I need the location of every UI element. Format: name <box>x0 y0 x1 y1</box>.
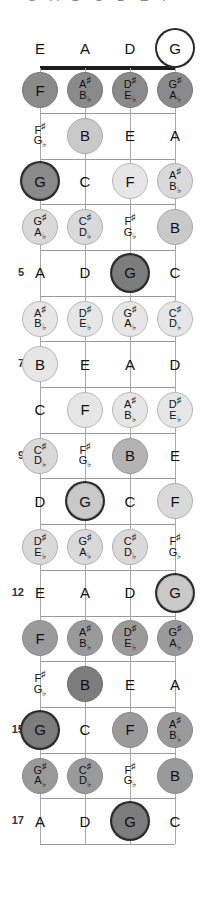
note-E-fret3[interactable]: G <box>22 163 58 199</box>
note-E-fret6[interactable]: A♯B♭ <box>22 301 58 337</box>
note-D-fret7[interactable]: A <box>112 346 148 382</box>
note-G-fret1[interactable]: G♯A♭ <box>157 72 193 108</box>
note-D-fret0[interactable]: D <box>112 30 148 66</box>
note-A-fret4[interactable]: C♯D♭ <box>67 209 103 245</box>
note-A-fret14[interactable]: B <box>67 666 103 702</box>
fret-number-17: 17 <box>2 814 24 826</box>
note-A-fret1[interactable]: A♯B♭ <box>67 72 103 108</box>
note-A-fret16[interactable]: C♯D♭ <box>67 758 103 794</box>
note-label: E <box>170 448 180 463</box>
note-flat-label: E♭ <box>124 90 135 104</box>
note-G-fret2[interactable]: A <box>157 118 193 154</box>
note-E-fret1[interactable]: F <box>22 72 58 108</box>
note-A-fret15[interactable]: C <box>67 712 103 748</box>
note-G-fret13[interactable]: G♯A♭ <box>157 620 193 656</box>
note-A-fret6[interactable]: D♯E♭ <box>67 301 103 337</box>
note-E-fret0[interactable]: E <box>22 30 58 66</box>
note-G-fret11[interactable]: F♯G♭ <box>157 529 193 565</box>
note-G-fret10[interactable]: F <box>157 483 193 519</box>
note-G-fret8[interactable]: D♯E♭ <box>157 392 193 428</box>
note-A-fret8[interactable]: F <box>67 392 103 428</box>
note-flat-label: A♭ <box>124 318 135 332</box>
note-E-fret16[interactable]: G♯A♭ <box>22 758 58 794</box>
note-A-fret11[interactable]: G♯A♭ <box>67 529 103 565</box>
note-E-fret9[interactable]: C♯D♭ <box>22 438 58 474</box>
note-G-fret6[interactable]: C♯D♭ <box>157 301 193 337</box>
note-G-fret15[interactable]: A♯B♭ <box>157 712 193 748</box>
note-D-fret11[interactable]: C♯D♭ <box>112 529 148 565</box>
fret-line-12 <box>40 616 175 617</box>
note-A-fret12[interactable]: A <box>67 575 103 611</box>
note-D-fret9[interactable]: B <box>112 438 148 474</box>
note-E-fret12[interactable]: E <box>22 575 58 611</box>
note-E-fret17[interactable]: A <box>22 803 58 839</box>
note-sharp-label: D♯ <box>124 624 136 638</box>
note-flat-label: D♭ <box>79 775 91 789</box>
note-D-fret15[interactable]: F <box>112 712 148 748</box>
note-A-fret17[interactable]: D <box>67 803 103 839</box>
note-sharp-label: F♯ <box>34 670 45 684</box>
note-label: A <box>170 128 180 143</box>
note-sharp-label: C♯ <box>79 213 91 227</box>
note-G-fret16[interactable]: B <box>157 758 193 794</box>
note-A-fret9[interactable]: F♯G♭ <box>67 438 103 474</box>
note-label: B <box>170 220 180 235</box>
note-E-fret5[interactable]: A <box>22 255 58 291</box>
nut <box>40 66 175 70</box>
note-G-fret7[interactable]: D <box>157 346 193 382</box>
note-D-fret1[interactable]: D♯E♭ <box>112 72 148 108</box>
note-flat-label: D♭ <box>34 455 46 469</box>
note-A-fret13[interactable]: A♯B♭ <box>67 620 103 656</box>
note-flat-label: E♭ <box>169 410 180 424</box>
note-flat-label: G♭ <box>124 775 137 789</box>
note-label: E <box>125 128 135 143</box>
note-A-fret5[interactable]: D <box>67 255 103 291</box>
note-E-fret4[interactable]: G♯A♭ <box>22 209 58 245</box>
note-A-fret2[interactable]: B <box>67 118 103 154</box>
note-flat-label: B♭ <box>79 90 90 104</box>
note-G-fret9[interactable]: E <box>157 438 193 474</box>
note-G-fret14[interactable]: A <box>157 666 193 702</box>
note-E-fret11[interactable]: D♯E♭ <box>22 529 58 565</box>
note-E-fret13[interactable]: F <box>22 620 58 656</box>
note-D-fret8[interactable]: A♯B♭ <box>112 392 148 428</box>
note-label: F <box>125 174 134 189</box>
note-A-fret3[interactable]: C <box>67 163 103 199</box>
fret-line-16 <box>40 798 175 799</box>
note-D-fret17[interactable]: G <box>112 803 148 839</box>
note-G-fret0[interactable]: G <box>157 30 193 66</box>
note-E-fret14[interactable]: F♯G♭ <box>22 666 58 702</box>
note-G-fret3[interactable]: A♯B♭ <box>157 163 193 199</box>
note-label: B <box>80 677 90 692</box>
note-G-fret4[interactable]: B <box>157 209 193 245</box>
note-D-fret2[interactable]: E <box>112 118 148 154</box>
note-E-fret8[interactable]: C <box>22 392 58 428</box>
fret-line-14 <box>40 707 175 708</box>
note-flat-label: B♭ <box>169 181 180 195</box>
note-E-fret7[interactable]: B <box>22 346 58 382</box>
note-D-fret12[interactable]: D <box>112 575 148 611</box>
note-E-fret10[interactable]: D <box>22 483 58 519</box>
note-D-fret6[interactable]: G♯A♭ <box>112 301 148 337</box>
note-label: B <box>80 128 90 143</box>
note-D-fret13[interactable]: D♯E♭ <box>112 620 148 656</box>
note-label: G <box>169 41 181 56</box>
note-label: G <box>169 585 181 600</box>
note-A-fret0[interactable]: A <box>67 30 103 66</box>
note-G-fret5[interactable]: C <box>157 255 193 291</box>
note-D-fret5[interactable]: G <box>112 255 148 291</box>
note-D-fret3[interactable]: F <box>112 163 148 199</box>
note-label: E <box>125 677 135 692</box>
note-G-fret17[interactable]: C <box>157 803 193 839</box>
note-flat-label: G♭ <box>79 455 92 469</box>
note-A-fret7[interactable]: E <box>67 346 103 382</box>
note-D-fret14[interactable]: E <box>112 666 148 702</box>
note-D-fret10[interactable]: C <box>112 483 148 519</box>
note-G-fret12[interactable]: G <box>157 575 193 611</box>
note-E-fret2[interactable]: F♯G♭ <box>22 118 58 154</box>
note-D-fret4[interactable]: F♯G♭ <box>112 209 148 245</box>
note-E-fret15[interactable]: G <box>22 712 58 748</box>
note-D-fret16[interactable]: F♯G♭ <box>112 758 148 794</box>
note-sharp-label: D♯ <box>34 533 46 547</box>
note-A-fret10[interactable]: G <box>67 483 103 519</box>
